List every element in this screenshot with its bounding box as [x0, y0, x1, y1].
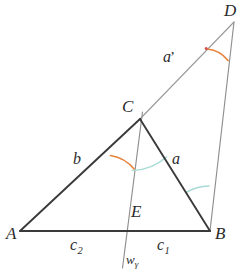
prime-mark: ’: [170, 49, 175, 65]
angle-gamma-half-left-arc: [111, 156, 135, 170]
angle-arcs: [111, 47, 229, 193]
segment-BD: [210, 22, 234, 231]
vertex-label-D: D: [224, 2, 236, 19]
segment-CB: [140, 119, 210, 231]
angle-gamma-half-right-arc: [133, 157, 167, 171]
vertex-label-C: C: [122, 98, 133, 115]
w-subscript-gamma: γ: [135, 259, 139, 269]
segment-CD: [140, 22, 234, 119]
c2-subscript: 2: [78, 245, 83, 256]
geometry-canvas: [0, 0, 248, 276]
vertex-label-B: B: [215, 225, 225, 242]
angle-marker-dot: [205, 47, 208, 50]
segment-AC: [20, 119, 140, 231]
triangle-ABC: [20, 119, 210, 231]
vertex-label-A: A: [6, 225, 16, 242]
c2-base: c: [70, 236, 77, 253]
angle-delta-arc: [207, 49, 229, 61]
segment-label-c2: c2: [70, 237, 82, 253]
c1-subscript: 1: [165, 245, 170, 256]
geometry-diagram: A B C D E b a a’ c2 c1 wγ: [0, 0, 248, 276]
side-label-a: a: [172, 151, 180, 167]
w-base: w: [126, 252, 135, 267]
vertex-label-E: E: [131, 203, 141, 220]
c1-base: c: [157, 236, 164, 253]
bisector-label-w-gamma: wγ: [126, 253, 138, 266]
segment-angle-bisector: [123, 112, 143, 268]
side-label-a-prime: a’: [163, 49, 176, 65]
segment-label-c1: c1: [157, 237, 169, 253]
angle-beta-arc: [186, 186, 209, 193]
side-label-b: b: [73, 151, 81, 167]
